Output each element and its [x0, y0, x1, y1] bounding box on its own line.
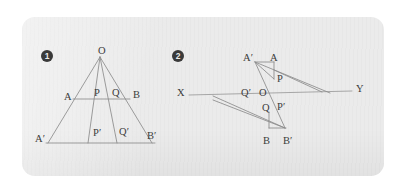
- point-label-O: O: [98, 46, 106, 57]
- ray-left-to-B-prime-upper: [213, 96, 285, 128]
- point-label-P-2: P: [277, 74, 283, 85]
- point-label-P: P: [94, 88, 100, 99]
- figure-1-marker: 1: [41, 50, 53, 62]
- figure-2-geometry: [0, 0, 404, 193]
- point-label-Y: Y: [356, 84, 364, 95]
- point-label-A: A: [64, 92, 72, 103]
- point-label-Q-2: Q: [262, 103, 270, 114]
- ray-A-prime-through-P: [255, 62, 274, 79]
- figure-2-marker: 2: [172, 50, 184, 62]
- point-label-Q-prime: Q′: [119, 127, 129, 138]
- point-label-B-2: B: [263, 136, 270, 147]
- point-label-Q: Q: [112, 88, 120, 99]
- point-label-P-prime-2: P′: [277, 102, 285, 113]
- point-label-Q-prime-2: Q′: [241, 88, 251, 99]
- point-label-A-2: A: [270, 53, 278, 64]
- point-label-B-prime-2: B′: [283, 136, 293, 147]
- point-label-X: X: [177, 88, 185, 99]
- point-label-B: B: [133, 90, 140, 101]
- screenshot-root: 1 O A P Q B A′ P′ Q′ B′ 2 X Y A′ A P Q′ …: [0, 0, 404, 193]
- point-label-A-prime: A′: [35, 134, 45, 145]
- point-label-B-prime: B′: [147, 131, 157, 142]
- point-label-O-2: O: [259, 88, 267, 99]
- point-label-A-prime-2: A′: [243, 53, 253, 64]
- point-label-P-prime: P′: [93, 128, 101, 139]
